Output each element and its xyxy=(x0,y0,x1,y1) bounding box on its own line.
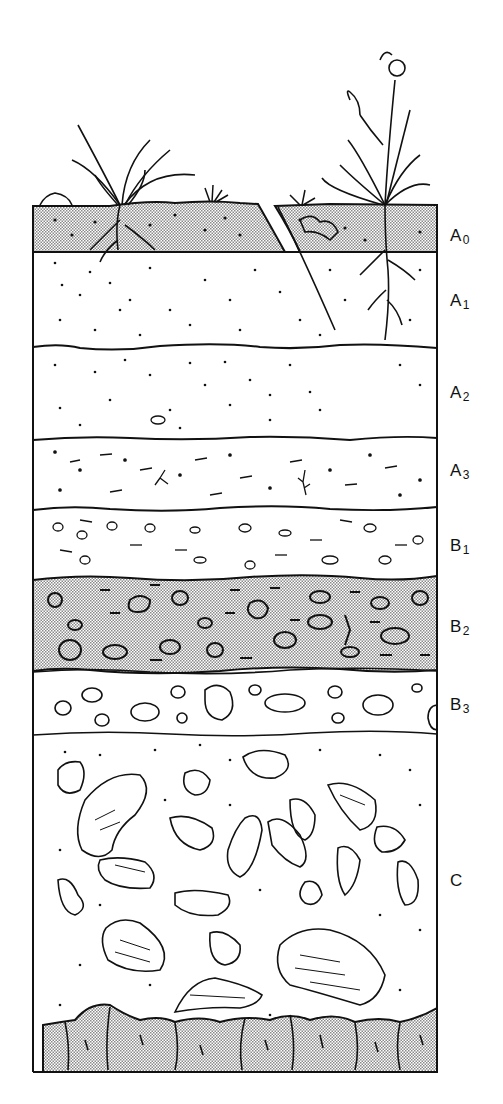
horizon-label-a0: A0 xyxy=(450,226,470,247)
horizon-label-b2: B2 xyxy=(450,617,470,638)
horizon-a2 xyxy=(54,359,422,430)
horizon-a3 xyxy=(54,451,421,496)
horizon-label-c: C xyxy=(450,871,463,891)
horizon-label-a2: A2 xyxy=(450,383,470,404)
c-horizon-dots xyxy=(59,744,422,1017)
horizon-b3 xyxy=(55,684,437,730)
rock-striations xyxy=(95,795,365,998)
horizon-a1 xyxy=(54,262,422,337)
small-grass-tuft-2 xyxy=(290,190,315,205)
flowering-plant-right xyxy=(322,52,430,340)
horizon-b1 xyxy=(53,520,423,569)
horizon-c xyxy=(58,750,418,1012)
horizon-label-a1: A1 xyxy=(450,291,470,312)
horizon-label-a3: A3 xyxy=(450,461,470,482)
soil-profile-drawing xyxy=(0,0,503,1104)
horizon-label-b3: B3 xyxy=(450,695,470,716)
bedrock xyxy=(43,1005,437,1072)
small-grass-tuft xyxy=(205,185,228,202)
horizon-label-b1: B1 xyxy=(450,536,470,557)
horizon-a0 xyxy=(33,202,437,253)
horizon-b2 xyxy=(33,575,437,673)
